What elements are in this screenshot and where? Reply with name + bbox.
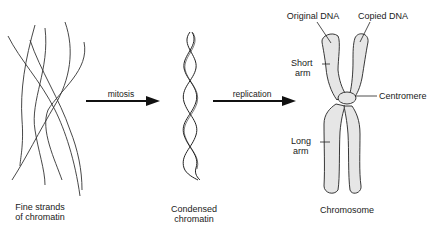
replication-label: replication — [222, 89, 282, 99]
long-arm-label-1: Long — [291, 136, 311, 146]
long-arm-left — [324, 104, 345, 193]
condensed-chromatin-helix — [183, 32, 200, 180]
centromere — [338, 92, 356, 104]
long-arm-label-2: arm — [293, 146, 309, 156]
copied-dna-label: Copied DNA — [353, 11, 413, 21]
fine-strands-label-2: of chromatin — [10, 212, 70, 222]
chromosome-label: Chromosome — [315, 205, 379, 215]
long-arm-right — [344, 106, 361, 193]
centromere-label: Centromere — [379, 91, 427, 101]
mitosis-label: mitosis — [96, 89, 146, 99]
diagram-canvas — [0, 0, 433, 234]
short-arm-label-1: Short — [291, 58, 313, 68]
condensed-label-1: Condensed — [164, 204, 224, 214]
original-dna-label: Original DNA — [283, 11, 343, 21]
short-arm-left — [322, 34, 345, 100]
short-arm-label-2: arm — [295, 68, 311, 78]
condensed-label-2: chromatin — [164, 214, 224, 224]
chromatin-strands — [8, 22, 85, 196]
short-arm-right — [350, 34, 368, 98]
fine-strands-label-1: Fine strands — [10, 202, 70, 212]
chromosome — [322, 34, 368, 193]
